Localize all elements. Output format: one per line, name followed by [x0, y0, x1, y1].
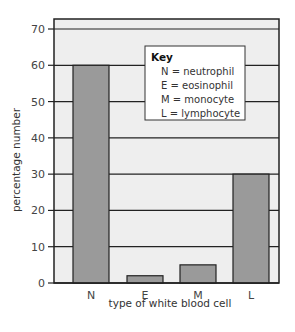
bar-l	[233, 174, 269, 283]
legend-entry-m: M = monocyte	[161, 94, 234, 105]
y-tick-label: 40	[31, 132, 45, 145]
x-axis-title: type of white blood cell	[109, 297, 232, 309]
bar-n	[73, 65, 109, 283]
y-tick-label: 50	[31, 96, 45, 109]
legend-key: Key N = neutrophil E = eosinophil M = mo…	[145, 46, 245, 120]
y-axis-title: percentage number	[10, 107, 22, 212]
y-tick-label: 10	[31, 241, 45, 254]
x-tick-label: L	[248, 289, 255, 302]
legend-title: Key	[151, 51, 173, 63]
x-tick-label: N	[87, 289, 95, 302]
legend-entry-e: E = eosinophil	[161, 80, 233, 91]
y-axis: 010203040506070	[31, 23, 54, 290]
y-tick-label: 20	[31, 204, 45, 217]
legend-entry-l: L = lymphocyte	[161, 108, 240, 119]
y-tick-label: 60	[31, 59, 45, 72]
y-tick-label: 0	[38, 277, 45, 290]
bar-chart: 010203040506070 NEML percentage number t…	[0, 0, 295, 332]
y-tick-label: 30	[31, 168, 45, 181]
y-tick-label: 70	[31, 23, 45, 36]
bar-m	[180, 265, 216, 283]
bar-e	[127, 276, 163, 283]
legend-entry-n: N = neutrophil	[161, 66, 234, 77]
